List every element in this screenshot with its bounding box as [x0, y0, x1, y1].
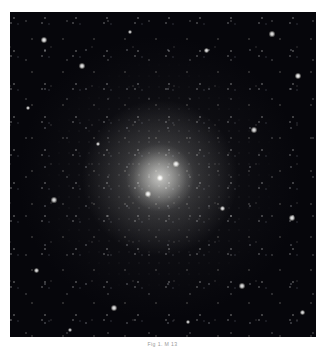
- page-canvas: Fig 1. M 13: [0, 0, 325, 350]
- bright-star: [51, 197, 56, 202]
- foreground-star-field-medium-secondary: [10, 12, 316, 337]
- bright-star: [204, 48, 209, 53]
- bright-star: [173, 161, 178, 166]
- bright-star: [79, 63, 85, 69]
- bright-star: [111, 305, 117, 311]
- photo-plate: [10, 12, 316, 337]
- bright-star: [41, 37, 47, 43]
- astronomy-photograph: [10, 12, 316, 337]
- bright-star: [269, 31, 274, 36]
- bright-star: [300, 310, 305, 315]
- figure-caption: Fig 1. M 13: [0, 340, 325, 348]
- bright-star: [289, 215, 295, 221]
- bright-star: [239, 283, 244, 288]
- bright-star: [251, 127, 256, 132]
- bright-star: [145, 191, 151, 197]
- bright-star: [34, 268, 39, 273]
- bright-star: [220, 206, 225, 211]
